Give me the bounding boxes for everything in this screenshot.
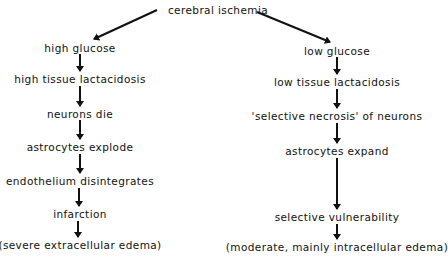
node-moderate-intracellular-edema: (moderate, mainly intracellular edema) bbox=[226, 241, 448, 253]
node-high-glucose: high glucose bbox=[44, 42, 115, 54]
node-low-glucose: low glucose bbox=[304, 45, 370, 57]
node-astrocytes-expand: astrocytes expand bbox=[285, 145, 389, 157]
node-low-tissue-lactacidosis: low tissue lactacidosis bbox=[274, 76, 400, 88]
arrow-root-left bbox=[94, 10, 157, 39]
node-severe-extracellular-edema: (severe extracellular edema) bbox=[0, 239, 162, 251]
node-high-tissue-lactacidosis: high tissue lactacidosis bbox=[14, 73, 146, 85]
node-selective-vulnerability: selective vulnerability bbox=[275, 211, 400, 223]
node-endothelium-disintegrates: endothelium disintegrates bbox=[6, 175, 154, 187]
arrow-root-right bbox=[257, 12, 330, 42]
node-astrocytes-explode: astrocytes explode bbox=[27, 141, 134, 153]
node-infarction: infarction bbox=[53, 208, 107, 220]
node-neurons-die: neurons die bbox=[47, 108, 113, 120]
node-selective-necrosis: 'selective necrosis' of neurons bbox=[252, 110, 423, 122]
node-cerebral-ischemia: cerebral ischemia bbox=[168, 4, 268, 16]
